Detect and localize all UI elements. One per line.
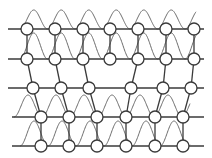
node-circle-r0-5 <box>160 23 172 35</box>
node-circle-r4-0 <box>35 140 47 152</box>
node-circle-r2-4 <box>157 82 169 94</box>
node-circle-r0-1 <box>49 23 61 35</box>
node-circle-r1-2 <box>77 53 89 65</box>
node-circle-r4-2 <box>91 140 103 152</box>
node-circle-r3-2 <box>91 111 103 123</box>
node-circle-r4-1 <box>63 140 75 152</box>
node-circle-r2-3 <box>125 82 137 94</box>
node-circle-r1-3 <box>104 53 116 65</box>
node-circle-r1-1 <box>49 53 61 65</box>
node-circle-r3-3 <box>120 111 132 123</box>
node-circle-r4-4 <box>149 140 161 152</box>
node-circle-r0-0 <box>21 23 33 35</box>
node-circle-r0-2 <box>77 23 89 35</box>
node-circle-r2-1 <box>55 82 67 94</box>
node-circle-r4-5 <box>177 140 189 152</box>
node-circle-r1-4 <box>132 53 144 65</box>
node-circle-r2-5 <box>185 82 197 94</box>
node-circle-r3-4 <box>149 111 161 123</box>
node-circle-r2-2 <box>83 82 95 94</box>
node-circle-r3-5 <box>177 111 189 123</box>
node-circle-r3-1 <box>63 111 75 123</box>
node-circle-r1-0 <box>21 53 33 65</box>
node-circle-r0-3 <box>104 23 116 35</box>
lattice-diagram <box>0 0 212 158</box>
node-circle-r3-0 <box>35 111 47 123</box>
node-circle-r1-6 <box>188 53 200 65</box>
node-circle-r0-6 <box>188 23 200 35</box>
node-circle-r1-5 <box>160 53 172 65</box>
node-circle-r0-4 <box>132 23 144 35</box>
node-circle-r2-0 <box>27 82 39 94</box>
node-circle-r4-3 <box>120 140 132 152</box>
